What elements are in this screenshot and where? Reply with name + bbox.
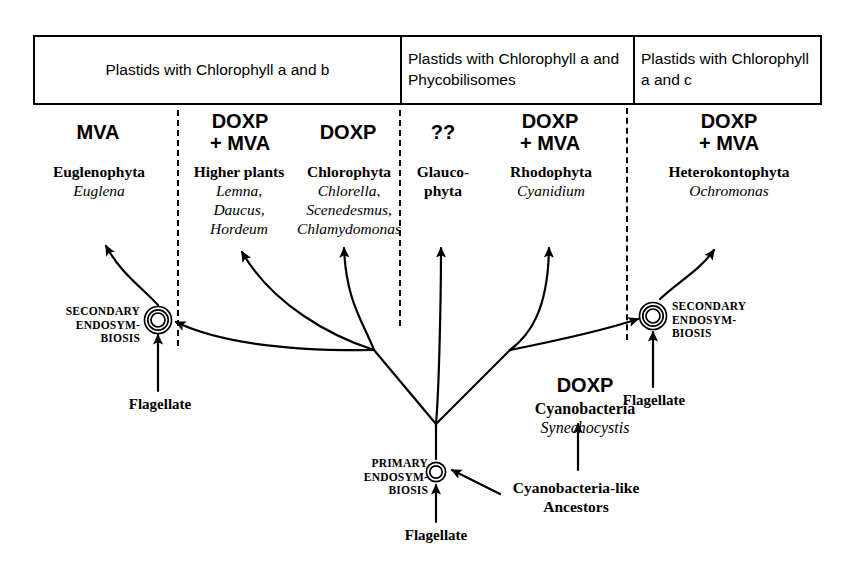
label-secondary-endosymbiosis-right: SECONDARY ENDOSYM- BIOSIS bbox=[672, 300, 792, 341]
edge-secondary-left-to-euglenophyta bbox=[106, 246, 158, 305]
pathway-label-rhodophyta: DOXP + MVA bbox=[495, 111, 605, 154]
taxon-rhodophyta: Rhodophyta Cyanidium bbox=[492, 163, 610, 201]
plastid-category-header-box: Plastids with Chlorophyll a and b Plasti… bbox=[33, 35, 822, 105]
label-flagellate-left: Flagellate bbox=[110, 396, 210, 413]
edge-fork-to-rhodophyta bbox=[510, 248, 549, 350]
taxon-genus-higher-plants: Higher plants bbox=[194, 163, 285, 180]
secondary-endosymbiosis-node-right bbox=[640, 303, 667, 330]
header-cell-chlorophyll-a-c: Plastids with Chlorophyll a and c bbox=[633, 37, 824, 103]
taxon-species-higher-plants: Lemna, Daucus, Hordeum bbox=[210, 182, 268, 237]
pathway-label-higher-plants: DOXP + MVA bbox=[186, 111, 294, 154]
pathway-label-euglenophyta: MVA bbox=[28, 122, 168, 144]
pathway-label-heterokontophyta: DOXP + MVA bbox=[640, 111, 818, 154]
pathway-label-glaucophyta: ?? bbox=[406, 122, 480, 144]
header-label-chlorophyll-a-phycobilisomes: Plastids with Chlorophyll a and Phycobil… bbox=[408, 49, 627, 91]
edge-secondary-right-to-heterokontophyta bbox=[660, 250, 714, 299]
cyanobacteria-block: DOXP Cyanobacteria Synechocystis bbox=[492, 373, 678, 437]
label-primary-endosymbiosis: PRIMARY ENDOSYM- BIOSIS bbox=[340, 457, 428, 498]
taxon-glaucophyta: Glauco- phyta bbox=[405, 163, 481, 201]
taxon-genus-chlorophyta: Chlorophyta bbox=[307, 163, 391, 180]
taxon-species-euglena: Euglena bbox=[73, 182, 125, 199]
cyanobacteria-pathway-label: DOXP bbox=[492, 373, 678, 397]
taxon-chlorophyta: Chlorophyta Chlorella, Scenedesmus, Chla… bbox=[288, 163, 410, 239]
taxon-genus-heterokontophyta: Heterokontophyta bbox=[668, 163, 789, 180]
edge-node-to-glaucophyta bbox=[436, 248, 441, 424]
edge-crossing-to-secondary-left bbox=[176, 322, 374, 350]
edge-node-to-green-crossing bbox=[374, 350, 436, 424]
label-flagellate-bottom: Flagellate bbox=[386, 527, 486, 544]
taxon-euglenophyta: Euglenophyta Euglena bbox=[28, 163, 170, 201]
pathway-label-chlorophyta: DOXP bbox=[300, 122, 396, 144]
column-divider-3 bbox=[626, 108, 628, 340]
taxon-genus-rhodophyta: Rhodophyta bbox=[510, 163, 592, 180]
cyanobacteria-genus-label: Cyanobacteria bbox=[492, 399, 678, 418]
taxon-species-chlorophyta: Chlorella, Scenedesmus, Chlamydomonas bbox=[297, 182, 401, 237]
taxon-heterokontophyta: Heterokontophyta Ochromonas bbox=[636, 163, 822, 201]
primary-endosymbiosis-node bbox=[426, 462, 445, 481]
column-divider-1 bbox=[177, 110, 179, 346]
taxon-genus-euglenophyta: Euglenophyta bbox=[53, 163, 145, 180]
header-label-chlorophyll-a-b: Plastids with Chlorophyll a and b bbox=[105, 60, 329, 81]
header-cell-chlorophyll-a-b: Plastids with Chlorophyll a and b bbox=[35, 37, 400, 103]
taxon-species-cyanidium: Cyanidium bbox=[517, 182, 585, 199]
edge-crossing-to-chlorophyta bbox=[344, 248, 374, 350]
taxon-higher-plants: Higher plants Lemna, Daucus, Hordeum bbox=[180, 163, 298, 239]
secondary-endosymbiosis-node-left bbox=[145, 307, 172, 334]
taxon-genus-glaucophyta: Glauco- phyta bbox=[417, 163, 470, 199]
cyanobacteria-species-label: Synechocystis bbox=[492, 418, 678, 437]
header-cell-chlorophyll-a-phycobilisomes: Plastids with Chlorophyll a and Phycobil… bbox=[400, 37, 633, 103]
figure-canvas: Plastids with Chlorophyll a and b Plasti… bbox=[0, 0, 842, 564]
header-label-chlorophyll-a-c: Plastids with Chlorophyll a and c bbox=[641, 49, 818, 91]
edge-fork-to-secondary-right bbox=[510, 319, 638, 350]
label-secondary-endosymbiosis-left: SECONDARY ENDOSYM- BIOSIS bbox=[34, 305, 140, 346]
label-cyanobacteria-like-ancestors: Cyanobacteria-like Ancestors bbox=[476, 479, 676, 516]
taxon-species-ochromonas: Ochromonas bbox=[689, 182, 769, 199]
edge-crossing-to-higher-plants bbox=[242, 252, 374, 350]
